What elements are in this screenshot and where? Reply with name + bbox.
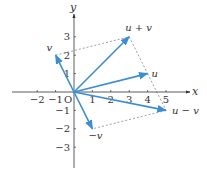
vector-u-arrow [74, 74, 148, 92]
vector-u-label: u [152, 68, 158, 79]
origin-label: O [64, 94, 72, 105]
dashed-segment [92, 110, 166, 128]
y-tick-label: −3 [55, 142, 70, 153]
vector-u-plus-v-label: u + v [125, 22, 152, 33]
x-tick-label: −1 [48, 94, 63, 105]
vector-u-plus-v-arrow [74, 37, 129, 92]
vector-neg-v-label: −v [88, 130, 102, 141]
diagram-canvas: −2−112345 321−1−2−3 x y O uvu + vu − v−v [0, 0, 207, 179]
x-tick-label: 4 [144, 94, 150, 105]
x-tick-label: 5 [163, 94, 169, 105]
y-tick-label: −2 [55, 123, 70, 134]
x-axis-label: x [192, 85, 199, 98]
y-tick-label: 2 [64, 50, 70, 61]
vector-u-minus-v-label: u − v [172, 105, 199, 116]
y-tick-label: 3 [64, 31, 70, 42]
vector-v-arrow [56, 55, 74, 92]
y-tick-label: −1 [55, 105, 70, 116]
x-tick-label: −2 [30, 94, 45, 105]
vector-v-label: v [47, 42, 53, 53]
y-axis-label: y [69, 1, 77, 14]
vector-diagram: −2−112345 321−1−2−3 x y O uvu + vu − v−v [0, 0, 207, 179]
dashed-segment [129, 37, 147, 74]
vector-u-minus-v-arrow [74, 92, 166, 110]
